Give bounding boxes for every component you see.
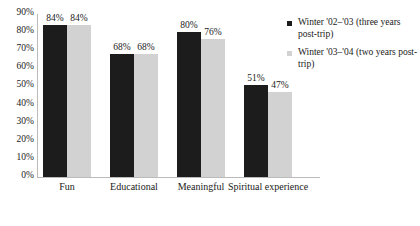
legend-item[interactable]: Winter '03–'04 (two years post-trip) (287, 47, 418, 70)
y-axis-tick-label: 40% (17, 98, 34, 108)
bar[interactable] (110, 54, 134, 177)
legend-item[interactable]: Winter '02–'03 (three years post-trip) (287, 17, 418, 40)
y-axis-tick-label: 60% (17, 61, 34, 71)
y-axis-tick-label: 10% (17, 152, 34, 162)
bar-group: 80%76% (177, 14, 225, 177)
bar[interactable] (134, 54, 158, 177)
y-axis-tick-label: 80% (17, 25, 34, 35)
bar-value-label: 68% (126, 42, 166, 53)
y-axis-tick-label: 50% (17, 79, 34, 89)
bar[interactable] (43, 25, 67, 177)
bar-value-label: 76% (193, 27, 233, 38)
bar[interactable] (244, 85, 268, 177)
legend-swatch-icon (287, 51, 292, 56)
y-axis-tick-labels: 0%10%20%30%40%50%60%70%80%90% (0, 12, 34, 178)
x-axis-category-label: Spiritual experience (220, 181, 316, 193)
bar[interactable] (268, 92, 292, 177)
bar-value-label: 47% (260, 80, 300, 91)
x-axis-line (37, 177, 320, 178)
bar[interactable] (201, 39, 225, 177)
y-axis-tick-label: 30% (17, 116, 34, 126)
bar-chart: 0%10%20%30%40%50%60%70%80%90% 84%84%68%6… (0, 0, 420, 226)
bar[interactable] (67, 25, 91, 177)
y-axis-tick-label: 70% (17, 43, 34, 53)
chart-legend: Winter '02–'03 (three years post-trip)Wi… (287, 17, 418, 77)
y-axis-tick-label: 90% (17, 7, 34, 17)
bar[interactable] (177, 32, 201, 177)
bar-group: 84%84% (43, 14, 91, 177)
legend-label: Winter '03–'04 (two years post-trip) (298, 47, 417, 69)
bar-value-label: 84% (59, 13, 99, 24)
y-axis-tick-label: 20% (17, 134, 34, 144)
legend-label: Winter '02–'03 (three years post-trip) (298, 17, 401, 39)
y-axis-tick-label: 0% (21, 170, 34, 180)
plot-area: 84%84%68%68%80%76%51%47% (38, 14, 320, 177)
legend-swatch-icon (287, 21, 292, 26)
bar-group: 51%47% (244, 14, 292, 177)
bar-group: 68%68% (110, 14, 158, 177)
